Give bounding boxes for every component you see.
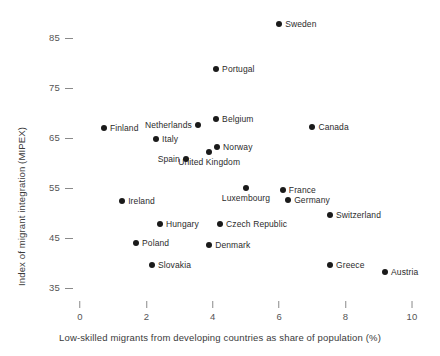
y-axis-tick-mark — [65, 88, 73, 89]
data-point[interactable] — [217, 221, 223, 227]
data-point[interactable] — [327, 212, 333, 218]
x-axis-tick-mark — [279, 301, 280, 308]
x-axis-tick: 10 — [407, 301, 418, 322]
data-point-label: Norway — [223, 142, 252, 152]
data-point-label: Belgium — [222, 114, 253, 124]
data-point[interactable] — [214, 144, 220, 150]
data-point[interactable] — [280, 187, 286, 193]
data-point-label: Italy — [162, 134, 178, 144]
data-point[interactable] — [382, 269, 388, 275]
data-point-label: Slovakia — [158, 260, 191, 270]
y-axis-tick-mark — [65, 238, 73, 239]
y-axis-tick-label: 65 — [49, 132, 60, 144]
x-axis-tick-label: 2 — [144, 311, 149, 322]
data-point[interactable] — [157, 221, 163, 227]
y-axis-tick: 45 — [36, 232, 73, 244]
data-point-label: Spain — [158, 154, 180, 164]
plot-area: 3545556575850246810SwedenPortugalBelgium… — [0, 0, 440, 356]
data-point-label: Hungary — [166, 219, 199, 229]
y-axis-tick-label: 45 — [49, 232, 60, 244]
data-point[interactable] — [206, 242, 212, 248]
data-point-label: France — [289, 185, 316, 195]
x-axis-tick-mark — [212, 301, 213, 308]
x-axis-tick: 0 — [77, 301, 82, 322]
x-axis-tick-mark — [146, 301, 147, 308]
y-axis-tick: 75 — [36, 82, 73, 94]
data-point-label: Denmark — [215, 240, 250, 250]
data-point[interactable] — [243, 185, 249, 191]
data-point-label: Netherlands — [145, 120, 192, 130]
data-point[interactable] — [327, 262, 333, 268]
data-point[interactable] — [206, 149, 212, 155]
y-axis-tick-mark — [65, 138, 73, 139]
data-point[interactable] — [149, 262, 155, 268]
data-point[interactable] — [213, 66, 219, 72]
data-point[interactable] — [133, 240, 139, 246]
y-axis-title: Index of migrant integration (MIPEX) — [16, 127, 27, 286]
scatter-chart: 3545556575850246810SwedenPortugalBelgium… — [0, 0, 440, 356]
y-axis-tick-mark — [65, 38, 73, 39]
x-axis-tick-label: 8 — [343, 311, 348, 322]
data-point-label: Poland — [142, 238, 169, 248]
x-axis-title: Low-skilled migrants from developing cou… — [0, 332, 440, 343]
y-axis-tick: 85 — [36, 32, 73, 44]
data-point-label: Sweden — [285, 19, 316, 29]
x-axis-tick: 4 — [210, 301, 215, 322]
data-point[interactable] — [153, 136, 159, 142]
data-point-label: Luxembourg — [222, 193, 270, 203]
data-point[interactable] — [213, 116, 219, 122]
y-axis-tick-label: 35 — [49, 282, 60, 294]
y-axis-tick-label: 55 — [49, 182, 60, 194]
y-axis-tick-label: 75 — [49, 82, 60, 94]
data-point-label: Canada — [318, 122, 348, 132]
data-point-label: Germany — [294, 195, 330, 205]
data-point[interactable] — [101, 125, 107, 131]
data-point[interactable] — [285, 197, 291, 203]
data-point-label: Switzerland — [336, 210, 381, 220]
y-axis-tick-mark — [65, 188, 73, 189]
x-axis-tick-label: 4 — [210, 311, 215, 322]
y-axis-tick-label: 85 — [49, 32, 60, 44]
data-point-label: Ireland — [128, 196, 155, 206]
data-point[interactable] — [195, 122, 201, 128]
data-point-label: Finland — [110, 123, 139, 133]
data-point-label: Czech Republic — [226, 219, 287, 229]
x-axis-tick: 6 — [276, 301, 281, 322]
y-axis-tick: 35 — [36, 282, 73, 294]
x-axis-tick-label: 0 — [77, 311, 82, 322]
data-point[interactable] — [309, 124, 315, 130]
x-axis-tick: 8 — [343, 301, 348, 322]
data-point-label: Portugal — [222, 64, 254, 74]
x-axis-tick-label: 10 — [407, 311, 418, 322]
y-axis-tick: 55 — [36, 182, 73, 194]
data-point[interactable] — [183, 156, 189, 162]
data-point[interactable] — [119, 198, 125, 204]
x-axis-tick: 2 — [144, 301, 149, 322]
data-point-label: Austria — [391, 267, 418, 277]
data-point-label: Greece — [336, 260, 364, 270]
data-point[interactable] — [276, 21, 282, 27]
x-axis-tick-label: 6 — [276, 311, 281, 322]
x-axis-tick-mark — [412, 301, 413, 308]
y-axis-tick-mark — [65, 288, 73, 289]
x-axis-tick-mark — [79, 301, 80, 308]
x-axis-tick-mark — [345, 301, 346, 308]
y-axis-tick: 65 — [36, 132, 73, 144]
